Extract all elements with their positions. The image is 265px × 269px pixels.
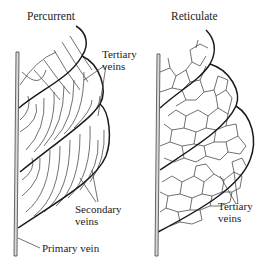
primary-vein-percurrent bbox=[14, 52, 19, 256]
venation-diagram bbox=[0, 0, 265, 269]
label-secondary-veins: Secondary veins bbox=[75, 203, 121, 227]
label-line: Secondary bbox=[75, 203, 121, 215]
label-line: veins bbox=[102, 60, 137, 72]
label-line: Tertiary bbox=[218, 200, 253, 212]
panel-title-percurrent: Percurrent bbox=[27, 10, 75, 22]
label-line: veins bbox=[218, 212, 253, 224]
label-tertiary-veins-left: Tertiary veins bbox=[102, 48, 137, 72]
label-line: veins bbox=[75, 215, 121, 227]
tertiary-veins-reticulate bbox=[160, 40, 246, 226]
panel-title-reticulate: Reticulate bbox=[171, 10, 218, 22]
label-line: Tertiary bbox=[102, 48, 137, 60]
label-primary-vein: Primary vein bbox=[42, 242, 99, 254]
label-tertiary-veins-right: Tertiary veins bbox=[218, 200, 253, 224]
primary-vein-reticulate bbox=[155, 54, 160, 256]
